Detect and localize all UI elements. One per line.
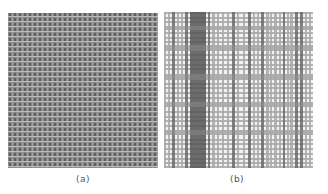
- panel-b-caption: (b): [217, 174, 257, 184]
- panel-a-woven-pattern: [8, 13, 158, 168]
- panel-b-plaid-pattern: [164, 12, 313, 168]
- panel-a-caption: (a): [63, 174, 103, 184]
- woven-pattern-image-a: [8, 13, 158, 168]
- plaid-pattern-image-b: [164, 12, 313, 168]
